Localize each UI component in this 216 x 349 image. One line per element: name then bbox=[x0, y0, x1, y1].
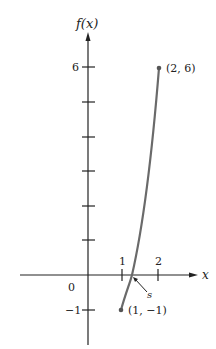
function-curve bbox=[121, 68, 159, 310]
tick-label-y6: 6 bbox=[72, 61, 79, 74]
origin-label: 0 bbox=[68, 281, 75, 294]
x-axis-label: x bbox=[202, 268, 209, 282]
point-end-label: (2, 6) bbox=[166, 62, 196, 75]
tick-label-x1: 1 bbox=[119, 255, 126, 268]
root-pointer bbox=[135, 279, 147, 292]
tick-label-yneg1: −1 bbox=[65, 304, 81, 317]
x-axis-arrow-icon bbox=[189, 273, 198, 278]
y-axis-arrow-icon bbox=[86, 32, 91, 41]
point-end bbox=[157, 66, 162, 71]
tick-label-x2: 2 bbox=[155, 255, 162, 268]
y-axis-label: f(x) bbox=[75, 16, 98, 31]
point-start bbox=[119, 308, 124, 313]
point-start-label: (1, −1) bbox=[128, 304, 167, 317]
function-graph: f(x) x 0 1 2 6 −1 (1, −1) (2, 6) s bbox=[0, 0, 216, 349]
root-label: s bbox=[147, 289, 152, 300]
